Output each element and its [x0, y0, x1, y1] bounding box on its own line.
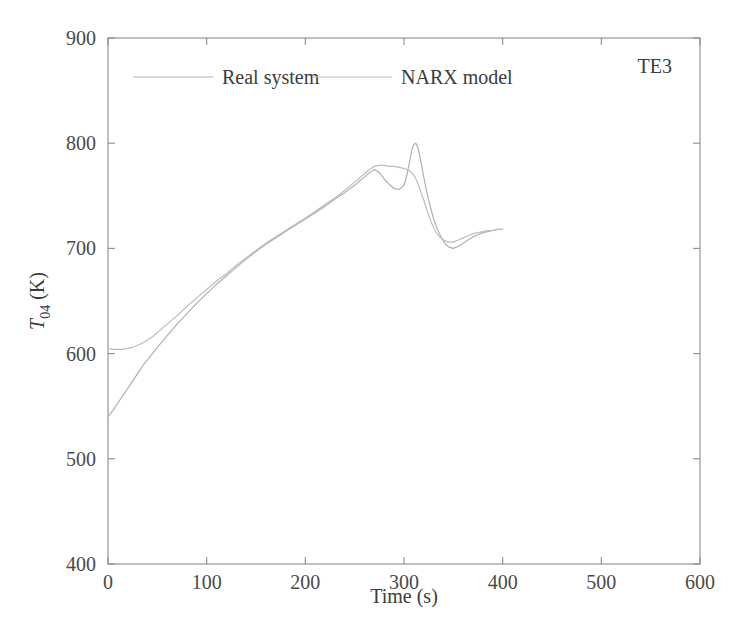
- y-tick-label: 500: [66, 448, 96, 470]
- y-axis-title-unit: (K): [26, 272, 49, 300]
- y-tick-label: 800: [66, 132, 96, 154]
- x-axis-title: Time (s): [370, 585, 438, 608]
- x-tick-label: 0: [103, 571, 113, 593]
- y-tick-label: 900: [66, 27, 96, 49]
- x-tick-label: 100: [192, 571, 222, 593]
- chart-annotation-te3: TE3: [638, 55, 672, 77]
- legend-label-real-system: Real system: [222, 66, 320, 89]
- chart-figure: 0100200300400500600 400500600700800900 T…: [0, 0, 739, 637]
- x-tick-label: 500: [586, 571, 616, 593]
- y-tick-label: 400: [66, 553, 96, 575]
- x-tick-label: 400: [488, 571, 518, 593]
- y-axis-title-subscript: 04: [38, 305, 53, 319]
- y-tick-label: 700: [66, 237, 96, 259]
- x-tick-label: 200: [290, 571, 320, 593]
- chart-background: [0, 0, 739, 637]
- x-tick-label: 600: [685, 571, 715, 593]
- legend-label-narx-model: NARX model: [401, 66, 513, 88]
- line-chart: 0100200300400500600 400500600700800900 T…: [0, 0, 739, 637]
- y-tick-label: 600: [66, 343, 96, 365]
